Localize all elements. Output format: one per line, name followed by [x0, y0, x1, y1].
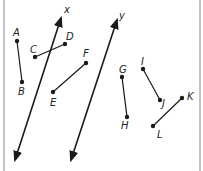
point-H-dot	[125, 115, 129, 119]
line-y: y	[71, 10, 126, 160]
point-A-dot	[15, 39, 19, 43]
segment-GH-stroke	[122, 77, 127, 117]
segment-AB: AB	[12, 27, 25, 97]
point-E-dot	[51, 90, 55, 94]
point-C-dot	[33, 55, 37, 59]
segment-KL-stroke	[153, 98, 182, 126]
point-I-dot	[141, 67, 145, 71]
segment-EF-stroke	[53, 63, 86, 92]
point-F-label: F	[83, 48, 89, 59]
diagram-canvas: xy ABCDEFGHIJKL	[0, 0, 203, 171]
point-L-dot	[151, 124, 155, 128]
point-G-label: G	[119, 64, 127, 75]
lines-and-segments-figure: xy ABCDEFGHIJKL	[0, 0, 203, 171]
point-D-label: D	[66, 31, 74, 42]
line-x-label: x	[63, 4, 70, 15]
segment-IJ: IJ	[141, 56, 165, 109]
segment-EF: EF	[50, 48, 89, 108]
point-F-dot	[84, 61, 88, 65]
segment-KL: KL	[151, 91, 195, 140]
point-E-label: E	[50, 97, 57, 108]
point-H-label: H	[121, 120, 129, 131]
point-K-dot	[180, 96, 184, 100]
point-A-label: A	[12, 27, 20, 38]
point-L-label: L	[157, 129, 163, 140]
point-K-label: K	[187, 91, 195, 102]
lines-layer: xy	[15, 4, 126, 160]
point-C-label: C	[30, 44, 37, 55]
point-D-dot	[63, 42, 67, 46]
segment-IJ-stroke	[143, 69, 160, 100]
line-y-stroke	[71, 20, 117, 160]
point-I-label: I	[141, 56, 144, 67]
point-B-label: B	[18, 86, 25, 97]
segment-CD-stroke	[35, 44, 65, 57]
segment-AB-stroke	[17, 41, 22, 82]
line-y-label: y	[118, 10, 126, 21]
segment-GH: GH	[119, 64, 129, 131]
point-G-dot	[120, 75, 124, 79]
point-B-dot	[20, 80, 24, 84]
